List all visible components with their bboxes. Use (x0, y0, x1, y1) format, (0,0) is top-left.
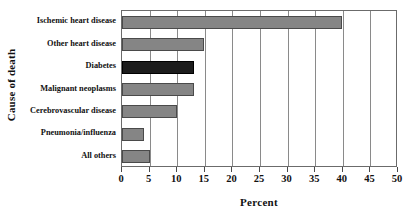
bar (122, 38, 204, 51)
bar (122, 128, 144, 141)
y-axis-tick-label: Other heart disease (47, 38, 116, 50)
y-axis-tick-label: Pneumonia/influenza (41, 127, 116, 139)
y-axis-tick-label: Diabetes (86, 60, 116, 72)
x-axis-tick-label: 40 (327, 173, 357, 184)
gridline-x-30 (288, 11, 289, 166)
x-axis-tick-label: 5 (134, 173, 164, 184)
x-axis-tick-label: 25 (244, 173, 274, 184)
x-axis-tick-mark (121, 167, 122, 172)
gridline-x-15 (205, 11, 206, 166)
x-axis-tick-mark (369, 167, 370, 172)
x-axis-tick-mark (342, 167, 343, 172)
x-axis-tick-label: 35 (299, 173, 329, 184)
y-axis-tick-label: Ischemic heart disease (37, 15, 116, 27)
y-axis-tick-label: All others (81, 150, 116, 162)
gridline-x-45 (370, 11, 371, 166)
gridline-x-40 (343, 11, 344, 166)
bar (122, 150, 150, 163)
x-axis-tick-mark (314, 167, 315, 172)
bar (122, 105, 177, 118)
bar (122, 83, 194, 96)
x-axis-tick-mark (259, 167, 260, 172)
bar (122, 16, 342, 29)
y-axis-tick-labels: Ischemic heart diseaseOther heart diseas… (18, 10, 119, 167)
x-axis-tick-mark (176, 167, 177, 172)
x-axis-tick-label: 45 (354, 173, 384, 184)
x-axis-tick-label: 15 (189, 173, 219, 184)
x-axis-tick-mark (204, 167, 205, 172)
x-axis-tick-label: 10 (161, 173, 191, 184)
x-axis-tick-mark (287, 167, 288, 172)
gridline-x-20 (232, 11, 233, 166)
x-axis-tick-mark (231, 167, 232, 172)
plot-area (121, 10, 397, 167)
x-axis-title: Percent (121, 196, 397, 208)
bar (122, 61, 194, 74)
x-axis-tick-mark (397, 167, 398, 172)
gridline-x-35 (315, 11, 316, 166)
x-axis-tick-label: 0 (106, 173, 136, 184)
x-axis-tick-label: 20 (216, 173, 246, 184)
x-axis-tick-mark (149, 167, 150, 172)
bar-chart-figure: Cause of death Ischemic heart diseaseOth… (0, 0, 420, 224)
y-axis-title-text: Cause of death (5, 49, 17, 121)
gridline-x-25 (260, 11, 261, 166)
y-axis-tick-label: Malignant neoplasms (40, 83, 116, 95)
x-axis-tick-label: 30 (272, 173, 302, 184)
y-axis-tick-label: Cerebrovascular disease (30, 105, 116, 117)
x-axis-tick-label: 50 (382, 173, 412, 184)
